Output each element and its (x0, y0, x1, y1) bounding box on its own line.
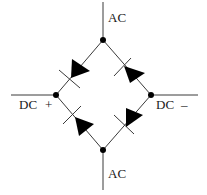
label-dc-left-polarity: + (45, 97, 52, 112)
diode-triangle-icon (71, 59, 90, 78)
bridge-rectifier-diagram: AC AC DC + DC – (0, 0, 207, 195)
label-dc-right: DC (156, 97, 174, 112)
diode-triangle-icon (126, 108, 143, 127)
diode-triangle-icon (124, 66, 145, 83)
label-dc-left: DC (19, 97, 37, 112)
node-bottom (100, 147, 106, 153)
label-ac-top: AC (108, 10, 126, 25)
label-dc-right-polarity: – (180, 97, 188, 112)
node-top (100, 37, 106, 43)
diode-triangle-icon (75, 117, 94, 136)
diode-lower-right (114, 108, 143, 134)
node-left (53, 92, 59, 98)
node-right (148, 92, 154, 98)
diode-upper-right (114, 58, 145, 83)
label-ac-bottom: AC (108, 166, 126, 181)
diode-upper-left (59, 59, 90, 88)
diode-lower-left (63, 106, 94, 136)
